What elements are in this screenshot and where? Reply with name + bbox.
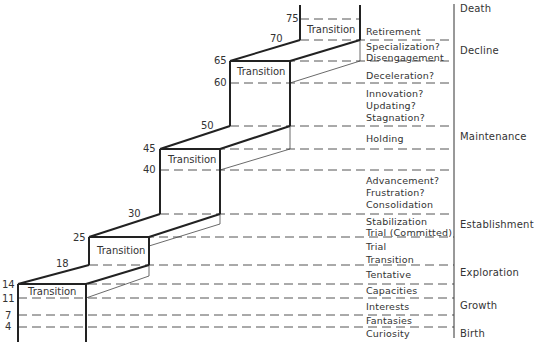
age-label-4: 4 xyxy=(5,322,11,332)
event-advancement: Advancement? xyxy=(366,176,439,186)
transition-label-70-75: Transition xyxy=(307,25,355,35)
stage-birth: Birth xyxy=(460,329,485,339)
event-trial-committed: Trial (Committed) xyxy=(366,228,452,238)
transition-label-40-45: Transition xyxy=(168,155,216,165)
age-label-30: 30 xyxy=(128,209,141,219)
transition-label-18-25: Transition xyxy=(97,246,145,256)
age-label-60: 60 xyxy=(214,78,227,88)
event-consolidation: Consolidation xyxy=(366,200,433,210)
stage-maintenance: Maintenance xyxy=(460,132,527,142)
transition-label-11-14: Transition xyxy=(28,287,76,297)
age-label-50: 50 xyxy=(201,121,214,131)
age-label-45: 45 xyxy=(143,144,156,154)
age-label-65: 65 xyxy=(214,56,227,66)
transition-label-60-65: Transition xyxy=(237,67,285,77)
event-holding: Holding xyxy=(366,134,404,144)
stage-establishment: Establishment xyxy=(460,220,534,230)
stage-growth: Growth xyxy=(460,301,497,311)
age-label-40: 40 xyxy=(143,165,156,175)
event-stagnation: Stagnation? xyxy=(366,113,425,123)
event-capacities: Capacities xyxy=(366,286,417,296)
event-specialization: Specialization? xyxy=(366,42,440,52)
age-label-7: 7 xyxy=(5,311,11,321)
age-label-25: 25 xyxy=(73,233,86,243)
event-transition: Transition xyxy=(366,255,414,265)
event-retirement: Retirement xyxy=(366,27,421,37)
stage-exploration: Exploration xyxy=(460,268,519,278)
event-frustration: Frustration? xyxy=(366,188,425,198)
event-curiosity: Curiosity xyxy=(366,329,410,339)
event-innovation: Innovation? xyxy=(366,89,424,99)
age-guide-lines xyxy=(18,19,454,327)
event-stabilization: Stabilization xyxy=(366,217,427,227)
event-trial: Trial xyxy=(366,242,386,252)
event-updating: Updating? xyxy=(366,101,416,111)
event-deceleration: Deceleration? xyxy=(366,71,434,81)
event-tentative: Tentative xyxy=(366,270,411,280)
age-label-70: 70 xyxy=(270,34,283,44)
age-label-11: 11 xyxy=(2,294,15,304)
age-label-18: 18 xyxy=(56,259,69,269)
event-interests: Interests xyxy=(366,302,409,312)
age-label-75: 75 xyxy=(286,14,299,24)
event-fantasies: Fantasies xyxy=(366,316,412,326)
stage-decline: Decline xyxy=(460,46,499,56)
stage-death: Death xyxy=(460,4,491,14)
age-label-14: 14 xyxy=(2,280,15,290)
event-disengagement: Disengagement xyxy=(366,53,444,63)
